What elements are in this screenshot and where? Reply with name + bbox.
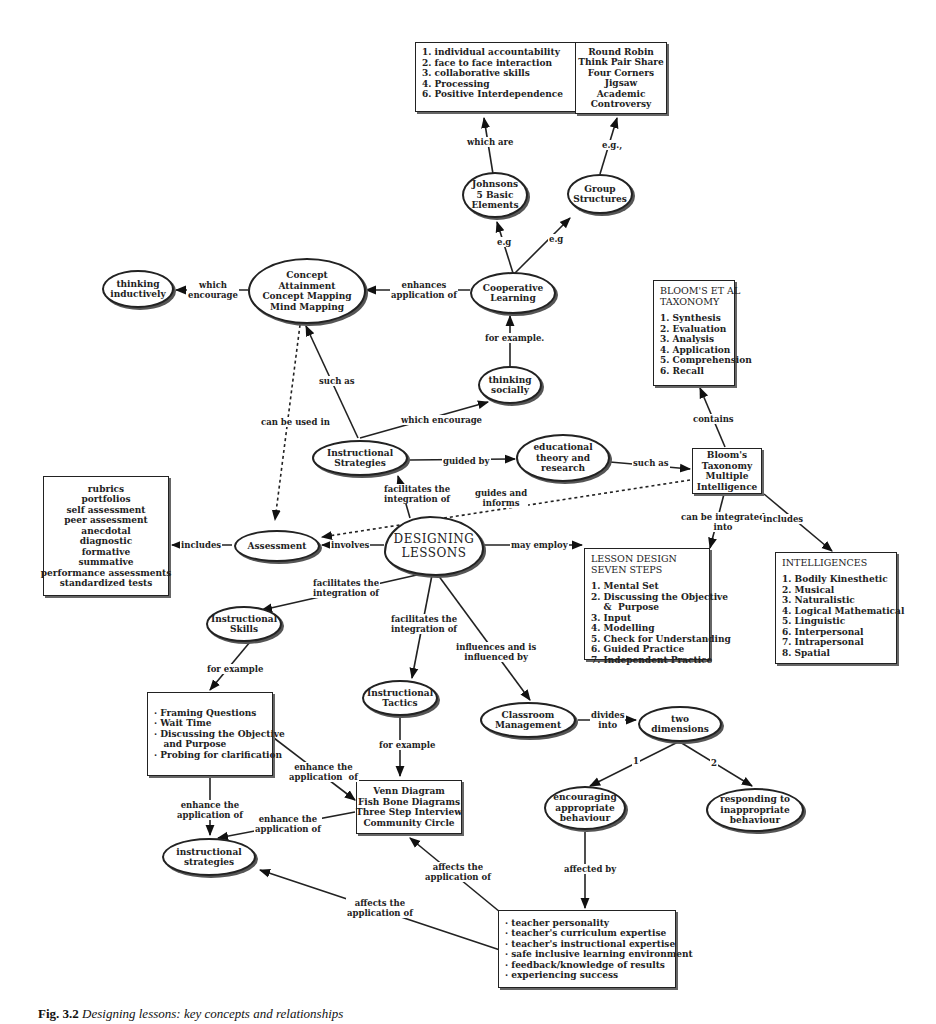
label-text: divides: [591, 710, 624, 720]
node-text: encouraging: [553, 792, 616, 803]
title-line: INTELLIGENCES: [782, 557, 867, 568]
edge-label-facilitates-integration-top: facilitates the integration of: [383, 484, 451, 504]
node-text: inappropriate: [720, 805, 789, 816]
label-text: enhance the: [177, 800, 243, 810]
edge-label-guided-by: guided by: [442, 456, 491, 466]
thinking-inductively-node: thinking inductively: [102, 270, 174, 308]
edge-label-influences: influences and is influenced by: [455, 642, 537, 662]
list-item: 1. Bodily Kinesthetic: [782, 574, 888, 585]
edge-label-includes-assessment: includes: [180, 540, 222, 550]
node-text: appropriate: [555, 803, 614, 814]
edge-label-for-example-coop: for example.: [484, 333, 545, 343]
label-text: enhances: [391, 280, 457, 290]
edge-label-enhance-application-left: enhance the application of: [176, 800, 244, 820]
edge-label-one: 1: [632, 756, 640, 766]
edge-label-enhance-application-mid: enhance the application of: [254, 814, 322, 834]
edge-label-involves: involves: [330, 540, 370, 550]
assessment-types-list: rubrics portfolios self assessment peer …: [43, 476, 169, 596]
label-text: for example: [207, 664, 263, 674]
list-item: Controversy: [591, 99, 652, 110]
node-text: behaviour: [730, 815, 780, 826]
list-item: 5. Check for Understanding: [591, 634, 731, 645]
node-text: Assessment: [248, 541, 307, 552]
label-text: facilitates the: [391, 614, 457, 624]
label-text: application of: [347, 908, 413, 918]
list-item: · Probing for clarification: [154, 750, 282, 761]
label-text: e.g: [497, 237, 511, 247]
list-item: and Purpose: [154, 739, 226, 750]
list-item: rubrics: [88, 484, 124, 495]
label-text: e.g: [549, 234, 563, 244]
list-item: Venn Diagram: [373, 786, 445, 797]
label-text: includes: [181, 540, 221, 550]
node-text: Johnsons: [472, 179, 518, 190]
node-text: Taxonomy: [702, 461, 752, 472]
label-text: can be integrated: [681, 512, 765, 522]
edge-label-includes-intelligences: includes: [762, 514, 804, 524]
node-text: behaviour: [560, 813, 610, 824]
edge-label-facilitates-tactics: facilitates the integration of: [390, 614, 458, 634]
edge-label-for-example-tactics: for example: [378, 740, 436, 750]
label-text: affects the: [425, 862, 491, 872]
figure-caption: Fig. 3.2 Designing lessons: key concepts…: [38, 1006, 343, 1022]
node-text: Concept Mapping: [262, 291, 351, 302]
label-text: application of: [289, 772, 358, 782]
list-item: 3. Input: [591, 613, 631, 624]
list-item: 8. Spatial: [782, 648, 830, 659]
list-item: 7. Intrapersonal: [782, 637, 864, 648]
node-text: Tactics: [382, 698, 417, 709]
list-item: Academic: [597, 89, 646, 100]
caption-label: Fig. 3.2: [38, 1006, 79, 1021]
label-text: into: [591, 720, 624, 730]
label-text: encourage: [188, 290, 238, 300]
list-item: 4. Modelling: [591, 623, 655, 634]
list-item: self assessment: [67, 505, 146, 516]
label-text: application of: [177, 810, 243, 820]
node-text: LESSONS: [401, 546, 466, 560]
list-item: 6. Positive Interdependence: [422, 89, 563, 100]
node-text: Cooperative: [483, 283, 543, 294]
label-text: e.g.,: [602, 140, 622, 150]
label-text: 1: [633, 756, 639, 766]
list-item: 7. Independent Practice: [591, 655, 712, 666]
list-item: 2. Discussing the Objective: [591, 592, 728, 603]
list-item: anecdotal: [81, 526, 130, 537]
list-item: Community Circle: [363, 818, 454, 829]
box-title: INTELLIGENCES: [782, 557, 867, 568]
group-structures-node: Group Structures: [567, 174, 633, 214]
node-text: Structures: [573, 194, 627, 205]
label-text: can be used in: [261, 417, 330, 427]
label-text: enhance the: [255, 814, 321, 824]
list-item: standardized tests: [60, 578, 153, 589]
instructional-skills-node: Instructional Skills: [206, 606, 282, 642]
blooms-taxonomy-box: BLOOM'S ET AL TAXONOMY 1. Synthesis 2. E…: [653, 280, 735, 386]
list-item: · teacher's curriculum expertise: [505, 928, 666, 939]
list-item: 1. Synthesis: [660, 313, 721, 324]
assessment-node: Assessment: [234, 530, 320, 562]
title-line: TAXONOMY: [660, 296, 740, 307]
label-text: affected by: [564, 864, 616, 874]
instructional-strategies-bottom-node: instructional strategies: [162, 838, 256, 876]
edge-label-affects-strategies: affects the application of: [346, 898, 414, 918]
edge-label-facilitates-skills: facilitates the integration of: [312, 578, 380, 598]
label-text: for example.: [485, 333, 544, 343]
label-text: application of: [391, 290, 457, 300]
label-text: involves: [331, 540, 369, 550]
intelligences-box: INTELLIGENCES 1. Bodily Kinesthetic 2. M…: [775, 552, 897, 664]
list-item: peer assessment: [64, 515, 147, 526]
node-text: Elements: [471, 200, 518, 211]
node-text: Learning: [490, 293, 535, 304]
list-item: Think Pair Share: [578, 57, 664, 68]
node-text: Mind Mapping: [270, 302, 344, 313]
responding-behaviour-node: responding to inappropriate behaviour: [706, 788, 804, 832]
educational-theory-node: educational theory and research: [516, 434, 610, 482]
edge-label-eg-structures: e.g.,: [601, 140, 623, 150]
list-item: · teacher's instructional expertise: [505, 939, 675, 950]
classroom-management-node: Classroom Management: [480, 702, 576, 738]
node-text: theory and: [536, 453, 590, 464]
blooms-mi-box: Bloom's Taxonomy Multiple Intelligence: [692, 448, 762, 494]
edge-label-may-employ: may employ: [510, 540, 569, 550]
label-text: 2: [711, 758, 717, 768]
node-text: thinking: [488, 375, 531, 386]
label-text: influenced by: [456, 652, 536, 662]
